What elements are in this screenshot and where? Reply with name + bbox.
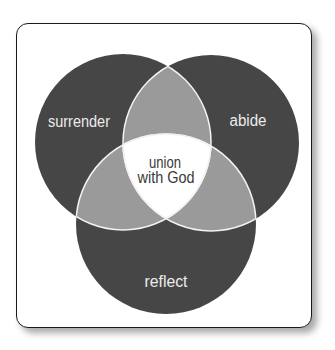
label-surrender: surrender [48,113,111,130]
label-reflect: reflect [145,273,189,290]
label-center-line2: with God [137,169,195,186]
label-abide: abide [230,112,267,129]
venn-diagram: surrender abide reflect union with God [0,0,335,350]
